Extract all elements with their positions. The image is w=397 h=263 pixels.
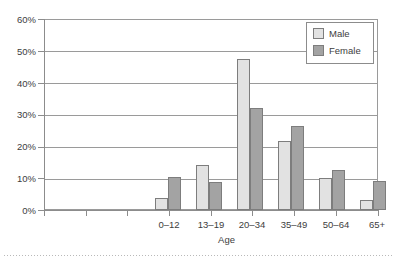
bottom-dotted-divider: [4, 255, 393, 256]
y-axis-tick-label: 40%: [2, 79, 36, 89]
x-axis-label-20-34: 20–34: [231, 219, 273, 230]
y-axis-tick-label: 30%: [2, 110, 36, 120]
bar-male-20-34: [237, 59, 250, 210]
y-axis-labels: 60% 50% 40% 30% 20% 10% 0%: [0, 0, 36, 263]
x-axis-label-50-64: 50–64: [315, 219, 357, 230]
legend-item-male: Male: [313, 28, 350, 39]
y-axis-tick-label: 20%: [2, 142, 36, 152]
x-axis-label-65plus: 65+: [356, 219, 397, 230]
x-axis-tick: [86, 211, 87, 216]
bar-male-50-64: [319, 178, 332, 210]
gridline-30: [45, 115, 377, 116]
bar-female-35-49: [291, 126, 304, 210]
x-axis-tick: [378, 211, 379, 216]
bar-female-65plus: [373, 181, 386, 210]
gridline-40: [45, 83, 377, 84]
legend-label-male: Male: [329, 29, 350, 39]
bar-female-0-12: [168, 177, 181, 210]
bar-male-13-19: [196, 165, 209, 210]
legend-item-female: Female: [313, 45, 361, 56]
x-axis-tick: [44, 211, 45, 216]
y-axis-tick-label: 0%: [2, 206, 36, 216]
legend-label-female: Female: [329, 46, 361, 56]
x-axis-title-text: Age: [218, 234, 235, 245]
x-axis-label-0-12: 0–12: [148, 219, 190, 230]
male-swatch-icon: [313, 28, 324, 39]
bar-male-35-49: [278, 141, 291, 210]
bar-female-50-64: [332, 170, 345, 210]
x-axis-tick: [336, 211, 337, 216]
bar-female-13-19: [209, 182, 222, 210]
gridline-20: [45, 147, 377, 148]
y-axis-line: [44, 19, 45, 211]
x-axis-tick: [127, 211, 128, 216]
x-axis-title: Age: [0, 234, 397, 245]
y-axis-tick-label: 50%: [2, 47, 36, 57]
bar-male-0-12: [155, 198, 168, 210]
x-axis-tick: [211, 211, 212, 216]
bar-male-65plus: [360, 200, 373, 210]
bar-female-20-34: [250, 108, 263, 210]
x-axis-tick: [294, 211, 295, 216]
x-axis-label-13-19: 13–19: [190, 219, 232, 230]
bar-chart: 60% 50% 40% 30% 20% 10% 0%: [0, 0, 397, 263]
female-swatch-icon: [313, 45, 324, 56]
x-axis-tick: [169, 211, 170, 216]
y-axis-tick-label: 10%: [2, 174, 36, 184]
x-axis-tick: [252, 211, 253, 216]
y-axis-tick-label: 60%: [2, 15, 36, 25]
legend: Male Female: [306, 22, 374, 64]
x-axis-label-35-49: 35–49: [273, 219, 315, 230]
